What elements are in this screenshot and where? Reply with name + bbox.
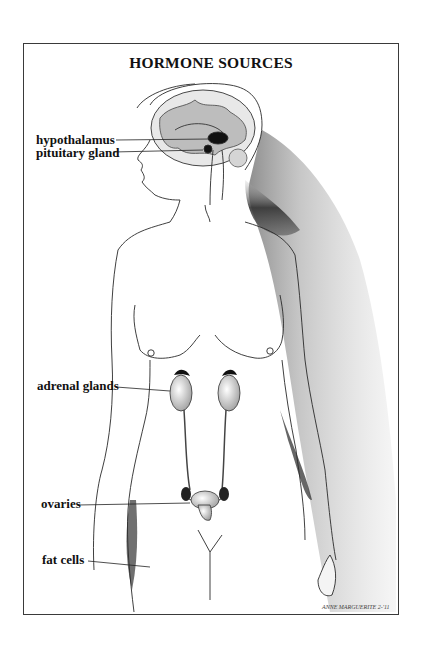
leader-adrenal bbox=[116, 387, 170, 391]
background-shading bbox=[126, 130, 396, 612]
leader-fat-cells bbox=[88, 561, 150, 567]
uterus-ovaries bbox=[181, 487, 229, 520]
label-ovaries: ovaries bbox=[41, 496, 81, 512]
kidneys-adrenal bbox=[170, 370, 240, 490]
leader-lines bbox=[78, 139, 210, 567]
label-pituitary-gland: pituitary gland bbox=[36, 145, 119, 161]
artist-signature: ANNE MARGUERITE 2-'11 bbox=[322, 604, 390, 610]
label-adrenal-glands: adrenal glands bbox=[37, 378, 119, 394]
head-brain bbox=[137, 84, 262, 222]
label-fat-cells: fat cells bbox=[42, 552, 84, 568]
